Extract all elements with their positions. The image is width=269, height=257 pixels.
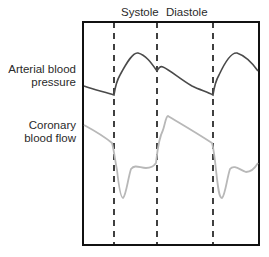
diagram-canvas: [0, 0, 269, 257]
diagram-frame: [83, 22, 259, 245]
coronary-flow-curve: [84, 116, 258, 198]
arterial-pressure-curve: [84, 53, 258, 95]
